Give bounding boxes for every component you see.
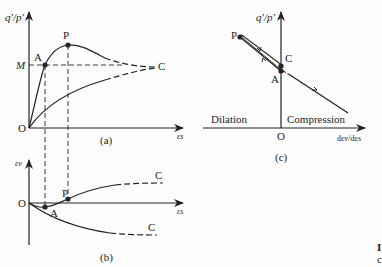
- dense-volume-curve: [29, 185, 115, 207]
- panel-b-point-a: A: [50, 208, 58, 219]
- stress-dilatancy-path-dashed: [283, 71, 290, 75]
- point-p-marker-c: [238, 35, 242, 39]
- panel-a-point-p: P: [63, 30, 69, 41]
- stress-dilatancy-path: [290, 75, 348, 113]
- panel-b-y-axis-label: εv: [15, 160, 22, 168]
- panel-a-caption: (a): [100, 135, 112, 146]
- loose-stress-curve-dashed: [105, 68, 155, 80]
- direction-arrow-1: [312, 87, 317, 90]
- loose-stress-curve: [29, 80, 105, 128]
- panel-a-x-axis-label: εs: [177, 133, 183, 141]
- panel-b-point-p: P: [62, 188, 68, 199]
- panel-c-point-c: C: [285, 53, 292, 64]
- panel-c-y-axis-label: q′/p′: [256, 12, 275, 23]
- panel-b-origin: O: [18, 198, 26, 209]
- panel-b-point-c-upper: C: [155, 170, 162, 181]
- panel-c-origin: O: [277, 131, 285, 142]
- panel-c-graph: [203, 12, 365, 128]
- loop-inner: [243, 38, 280, 69]
- panel-a-point-m: M: [16, 60, 25, 71]
- edge-text-bottom: c: [377, 254, 382, 265]
- panel-a-origin: O: [18, 123, 26, 134]
- point-p-marker: [66, 43, 70, 47]
- diagram-canvas: [0, 0, 382, 267]
- panel-b-x-axis-label: εs: [177, 208, 183, 216]
- panel-c-caption: (c): [275, 152, 287, 163]
- panel-a-point-a: A: [34, 52, 42, 63]
- panel-a-y-axis-label: q′/p′: [5, 12, 24, 23]
- panel-c-region-compression: Compression: [287, 114, 345, 125]
- loose-volume-curve-dashed: [110, 233, 157, 235]
- panel-a-point-c: C: [158, 61, 165, 72]
- dense-stress-curve-dashed: [105, 58, 155, 67]
- panel-b-point-c-lower: C: [148, 222, 155, 233]
- point-c-marker-c: [279, 64, 283, 68]
- panel-b-caption: (b): [100, 252, 113, 263]
- point-a-marker-c: [279, 69, 283, 73]
- edge-text-top: I: [377, 242, 381, 253]
- point-a-marker: [43, 63, 47, 67]
- panel-c-x-axis-label: dεv/dεs: [337, 135, 361, 143]
- panel-c-point-a: A: [271, 74, 279, 85]
- panel-c-point-p: P: [231, 30, 237, 41]
- dense-volume-curve-dashed: [115, 183, 163, 185]
- point-a-marker-b: [43, 205, 47, 209]
- panel-c-region-dilation: Dilation: [211, 114, 247, 125]
